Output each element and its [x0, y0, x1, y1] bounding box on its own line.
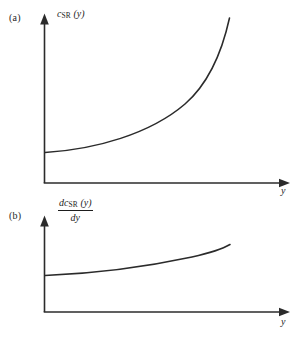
panel-a: (a) cSR (y) y — [0, 0, 305, 195]
panel-a-y-axis — [40, 14, 49, 184]
panel-a-y-axis-arrowhead — [40, 14, 49, 25]
panel-b-y-axis — [40, 216, 49, 313]
panel-a-plot — [0, 0, 305, 195]
panel-b-plot — [0, 195, 305, 342]
panel-b: (b) dcSR (y) dy y — [0, 195, 305, 342]
panel-a-x-axis — [44, 179, 290, 187]
panel-b-curve — [45, 245, 230, 276]
figure-container: (a) cSR (y) y (b) dcSR (y) dy — [0, 0, 305, 342]
panel-b-x-axis-arrowhead — [279, 308, 290, 316]
panel-b-y-axis-arrowhead — [40, 216, 49, 227]
panel-b-x-axis — [44, 308, 290, 316]
panel-a-x-axis-arrowhead — [279, 179, 290, 187]
panel-a-curve — [45, 18, 230, 153]
